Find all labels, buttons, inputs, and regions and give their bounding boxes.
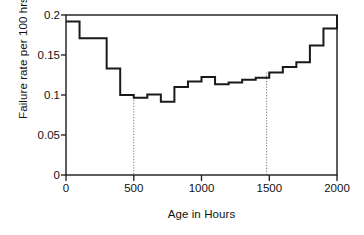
x-axis-ticks: 0 500 1000 1500 2000 (0, 182, 364, 202)
y-tick-label: 0.1 (44, 89, 60, 101)
y-tick-marks (61, 15, 66, 175)
x-tick-label: 1000 (189, 182, 215, 194)
y-axis-label: Failure rate per 100 hrs (17, 0, 29, 133)
x-tick-label: 500 (124, 182, 143, 194)
failure-rate-step-curve (66, 15, 337, 102)
x-tick-label: 2000 (324, 182, 350, 194)
y-tick-label: 0 (54, 169, 60, 181)
y-tick-label: 0.2 (44, 9, 60, 21)
x-axis-label: Age in Hours (66, 208, 337, 220)
x-tick-marks (66, 175, 337, 181)
x-tick-label: 1500 (257, 182, 283, 194)
y-tick-label: 0.05 (38, 129, 60, 141)
x-tick-label: 0 (63, 182, 69, 194)
chart-figure: 0 0.05 0.1 0.15 0.2 0 500 1000 1500 2000… (0, 0, 364, 235)
y-tick-label: 0.15 (38, 49, 60, 61)
